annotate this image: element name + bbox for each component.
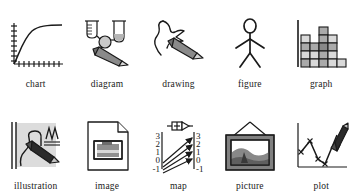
icon-label-drawing: drawing [162, 79, 195, 90]
image-icon [76, 119, 138, 177]
icon-row-bottom: illustration image [0, 102, 357, 192]
figure-icon [219, 17, 281, 75]
icon-cell-diagram[interactable]: diagram [72, 17, 142, 90]
icon-label-graph: graph [310, 79, 333, 90]
icon-sheet: chart [0, 0, 357, 196]
icon-label-picture: picture [236, 181, 264, 192]
map-icon: 3 2 1 0 -1 3 2 1 0 -1 [147, 119, 209, 177]
diagram-icon [76, 17, 138, 75]
icon-cell-graph[interactable]: graph [286, 17, 356, 90]
map-tick-left-neg1: -1 [153, 164, 161, 174]
icon-cell-plot[interactable]: plot [286, 119, 356, 192]
graph-icon [290, 17, 352, 75]
icon-label-diagram: diagram [91, 79, 124, 90]
chart-icon [5, 17, 67, 75]
icon-cell-map[interactable]: 3 2 1 0 -1 3 2 1 0 -1 map [143, 119, 213, 192]
icon-label-map: map [170, 181, 187, 192]
icon-cell-image[interactable]: image [72, 119, 142, 192]
icon-cell-picture[interactable]: picture [215, 119, 285, 192]
icon-label-illustration: illustration [14, 181, 58, 192]
icon-cell-illustration[interactable]: illustration [1, 119, 71, 192]
icon-label-figure: figure [238, 79, 262, 90]
drawing-icon [147, 17, 209, 75]
map-tick-right-neg1: -1 [196, 164, 204, 174]
icon-label-chart: chart [26, 79, 46, 90]
icon-row-top: chart [0, 4, 357, 90]
icon-cell-drawing[interactable]: drawing [143, 17, 213, 90]
picture-icon [219, 119, 281, 177]
illustration-icon [5, 119, 67, 177]
icon-cell-figure[interactable]: figure [215, 17, 285, 90]
plot-icon [290, 119, 352, 177]
icon-cell-chart[interactable]: chart [1, 17, 71, 90]
icon-label-image: image [95, 181, 119, 192]
icon-label-plot: plot [313, 181, 329, 192]
